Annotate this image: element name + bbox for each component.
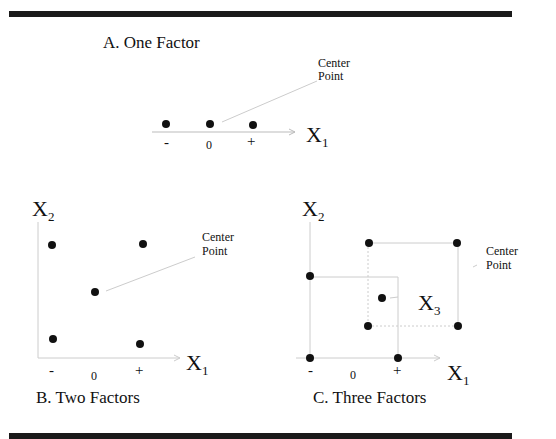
panel-b-tick-plus: + <box>135 362 143 379</box>
panel-c-x1-label: X1 <box>447 360 469 389</box>
panel-c-tick-zero: 0 <box>350 368 356 383</box>
diagram-graphics <box>0 0 556 439</box>
panel-c-x2-label: X2 <box>302 196 324 225</box>
panel-b-tick-minus: - <box>49 362 54 379</box>
panel-b-x2-label: X2 <box>32 196 54 225</box>
panel-a-tick-zero: 0 <box>206 138 212 153</box>
panel-a-annotation-2: Point <box>318 69 343 84</box>
panel-a-tick-minus: - <box>164 134 169 151</box>
panel-c-annotation-2: Point <box>486 258 511 273</box>
panel-c-x3-label: X3 <box>418 290 440 319</box>
panel-c-tick-minus: - <box>308 362 313 379</box>
panel-c-annotation-1: Center <box>486 244 518 259</box>
panel-a-x1-label: X1 <box>306 122 328 151</box>
panel-b-annotation-1: Center <box>202 230 234 245</box>
panel-a-tick-plus: + <box>247 133 255 150</box>
panel-c-tick-plus: + <box>393 362 401 379</box>
panel-b-title: B. Two Factors <box>36 388 140 408</box>
panel-b-annotation-2: Point <box>202 244 227 259</box>
panel-c-title: C. Three Factors <box>313 388 426 408</box>
panel-a-title: A. One Factor <box>103 33 200 53</box>
panel-b-tick-zero: 0 <box>91 369 97 384</box>
panel-b-x1-label: X1 <box>186 350 208 379</box>
